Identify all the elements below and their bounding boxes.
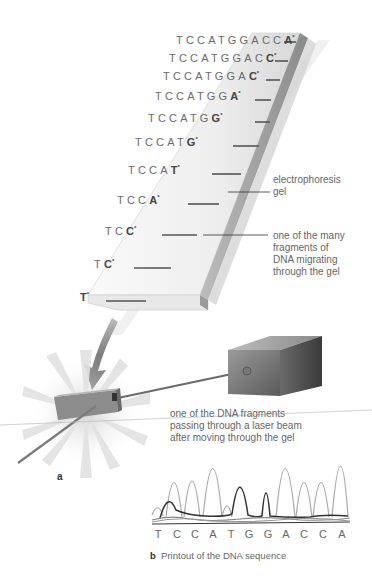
diagram-graphics: [0, 0, 372, 579]
sequence-row: TC*: [94, 258, 117, 270]
sequence-row: TCCATGG*: [148, 112, 226, 124]
sequence-row: TCCA*: [117, 194, 163, 206]
fragment-callout-label: one of the many fragments of DNA migrati…: [273, 230, 345, 278]
sequence-row: T*: [80, 291, 92, 303]
detector-box: [228, 336, 322, 396]
sequence-row: TCCATG*: [135, 136, 201, 148]
sequence-row: TCC*: [105, 225, 140, 237]
laser-callout-label: one of the DNA fragments passing through…: [170, 408, 302, 444]
panel-a-label: a: [57, 471, 63, 482]
sequence-row: TCCATGGA*: [155, 90, 244, 102]
sequence-row: TCCATGGAC*: [163, 70, 262, 82]
sequence-row: TCCATGGACCA*: [176, 34, 298, 46]
panel-b-label: b: [150, 550, 156, 561]
sequence-row: TCCATGGACC*: [169, 52, 280, 64]
sequence-row: TCCAT*: [128, 164, 183, 176]
laser-beam-out: [118, 371, 246, 398]
gel-callout-label: electrophoresis gel: [273, 174, 341, 198]
chromatogram: [152, 466, 350, 524]
panel-b-caption: b Printout of the DNA sequence: [150, 550, 286, 561]
